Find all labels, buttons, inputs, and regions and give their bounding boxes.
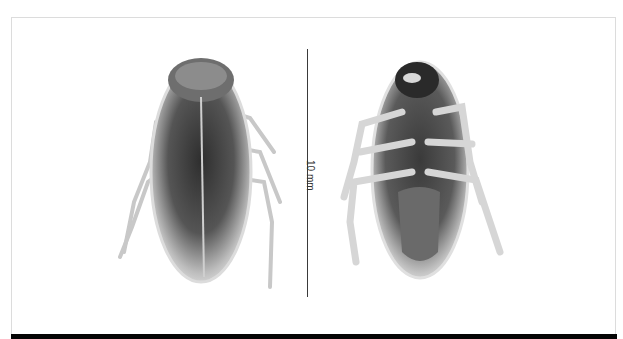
- scale-bar-label: 10 mm: [305, 160, 316, 191]
- dorsal-specimen-image: [112, 52, 290, 302]
- bottom-black-band: [11, 334, 617, 339]
- ventral-specimen-image: [332, 52, 517, 302]
